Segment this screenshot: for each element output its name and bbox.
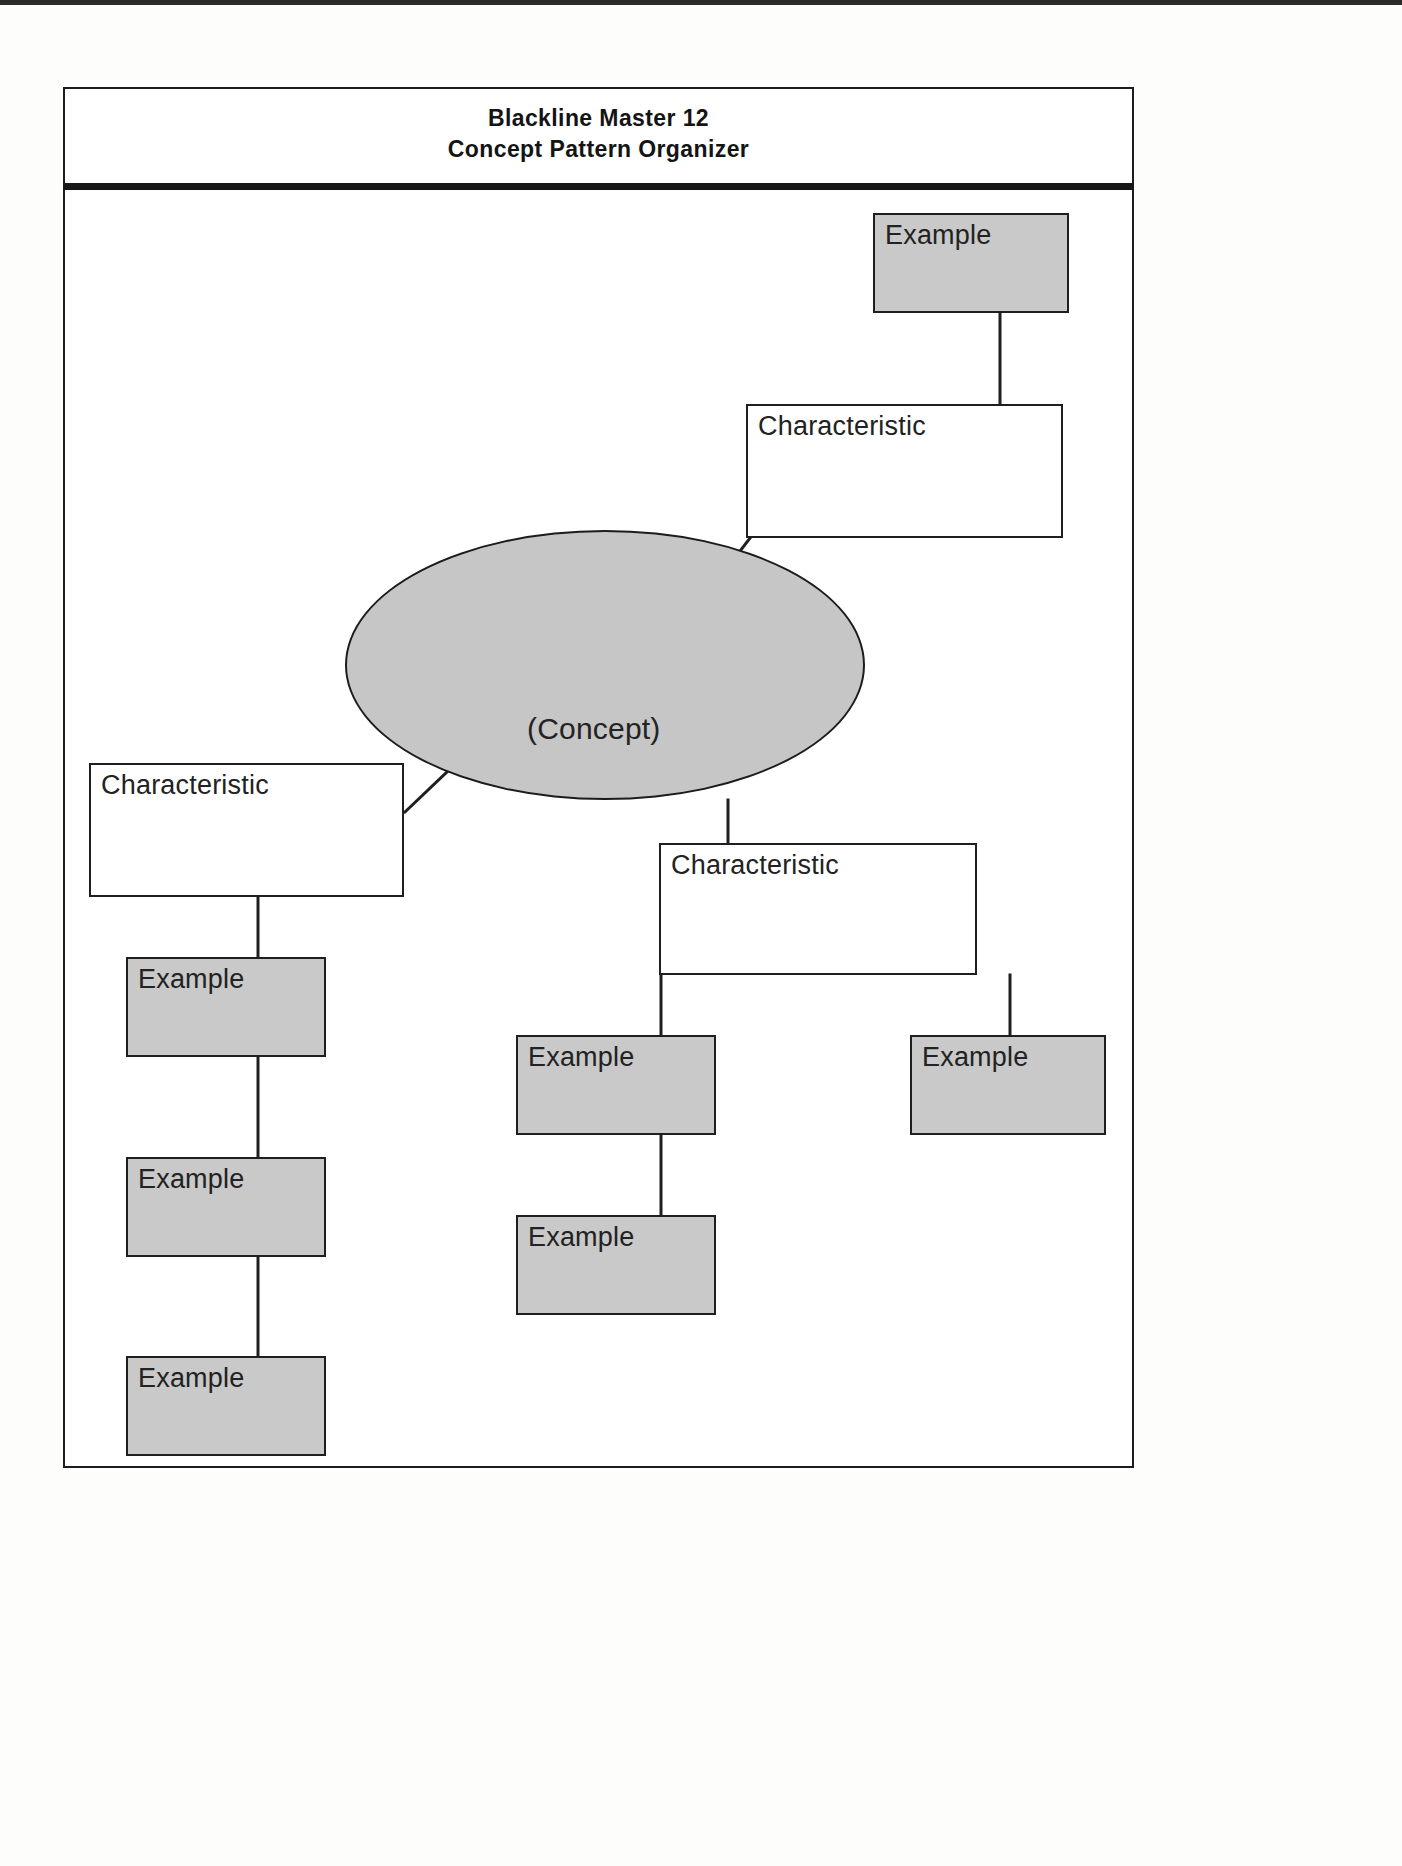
example-label: Example: [922, 1043, 1104, 1071]
characteristic-box-middle[interactable]: Characteristic: [659, 843, 977, 975]
example-label: Example: [528, 1043, 714, 1071]
example-box-left-2[interactable]: Example: [126, 1157, 326, 1257]
example-label: Example: [138, 1165, 324, 1193]
example-box-right[interactable]: Example: [910, 1035, 1106, 1135]
example-box-left-3[interactable]: Example: [126, 1356, 326, 1456]
example-box-left-1[interactable]: Example: [126, 957, 326, 1057]
example-box-middle-1[interactable]: Example: [516, 1035, 716, 1135]
characteristic-label: Characteristic: [671, 851, 975, 879]
title-divider-rule: [63, 183, 1134, 190]
page-title: Blackline Master 12 Concept Pattern Orga…: [63, 103, 1134, 165]
example-label: Example: [885, 221, 1067, 249]
characteristic-box-top-right[interactable]: Characteristic: [746, 404, 1063, 538]
title-line-primary: Blackline Master 12: [63, 103, 1134, 134]
example-box-top-right[interactable]: Example: [873, 213, 1069, 313]
characteristic-box-left[interactable]: Characteristic: [89, 763, 404, 897]
example-label: Example: [528, 1223, 714, 1251]
characteristic-label: Characteristic: [101, 771, 402, 799]
example-label: Example: [138, 965, 324, 993]
title-line-secondary: Concept Pattern Organizer: [63, 134, 1134, 165]
concept-label: (Concept): [527, 712, 661, 746]
page-canvas: Blackline Master 12 Concept Pattern Orga…: [0, 0, 1402, 1866]
characteristic-label: Characteristic: [758, 412, 1061, 440]
example-box-middle-2[interactable]: Example: [516, 1215, 716, 1315]
scan-top-edge: [0, 0, 1402, 5]
example-label: Example: [138, 1364, 324, 1392]
concept-ellipse[interactable]: [345, 530, 865, 800]
